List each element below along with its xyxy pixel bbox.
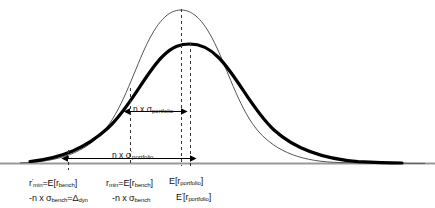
rpm2-sub2: dyn [78, 197, 87, 203]
annotation-lower-subscript: portfolio [132, 154, 153, 160]
axis-label-r-min-line2: -n x σbench [112, 187, 150, 205]
distribution-diagram: n x σportfolio n x σ'portfolio r'min=E[r… [0, 0, 435, 208]
rm2-base1: -n x σ [112, 193, 134, 203]
annotation-lower-prefix: n x [112, 150, 126, 160]
epp-base3: ] [209, 192, 211, 202]
ep-base1: E[r [169, 176, 180, 186]
rpm2-base2: =Δ [67, 193, 78, 203]
annotation-lower-span: n x σ'portfolio [112, 144, 153, 162]
epp-sub1: portfolio [188, 196, 208, 202]
annotation-upper-span: n x σportfolio [133, 98, 173, 116]
annotation-upper-subscript: portfolio [152, 108, 173, 114]
thin-distribution-curve [20, 10, 425, 163]
axis-label-e-prime-portfolio: E'[rportfolio] [176, 186, 211, 204]
thick-distribution-curve [30, 44, 402, 163]
rpm2-base1: -n x σ [29, 193, 51, 203]
rm-base3: ] [151, 178, 153, 188]
ep-base2: ] [201, 176, 203, 186]
rm2-sub1: bench [134, 197, 150, 203]
annotation-upper-prefix: n x [133, 104, 147, 114]
rpm2-sub1: bench [51, 197, 67, 203]
axis-label-r-prime-min-line2: -n x σbench=Δdyn [29, 187, 88, 205]
